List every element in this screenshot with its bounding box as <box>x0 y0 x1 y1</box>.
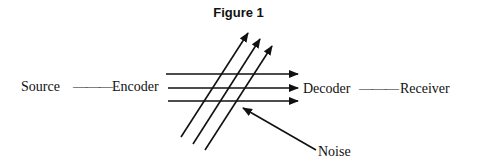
noise-pointer-line <box>243 108 316 150</box>
noise-pointer-arrow <box>243 108 316 150</box>
noise-arrow <box>181 33 248 137</box>
noise-arrow <box>205 46 272 150</box>
noise-arrows <box>181 33 272 150</box>
communication-diagram <box>0 0 477 167</box>
signal-arrows <box>166 74 298 101</box>
noise-arrow <box>193 39 260 144</box>
